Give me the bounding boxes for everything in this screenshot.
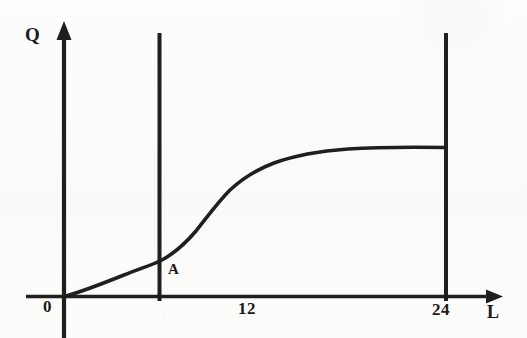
y-axis-label: Q (25, 25, 40, 44)
x-tick-label-24: 24 (432, 301, 450, 318)
x-tick-label-12: 12 (238, 300, 256, 317)
production-function-diagram (0, 0, 527, 338)
figure-screenshot: Q L 0 12 24 A (0, 0, 527, 338)
y-axis-arrowhead (57, 21, 72, 40)
total-product-curve (66, 147, 446, 296)
x-axis-label: L (487, 303, 499, 321)
origin-label: 0 (43, 298, 52, 315)
point-a-label: A (168, 262, 179, 277)
